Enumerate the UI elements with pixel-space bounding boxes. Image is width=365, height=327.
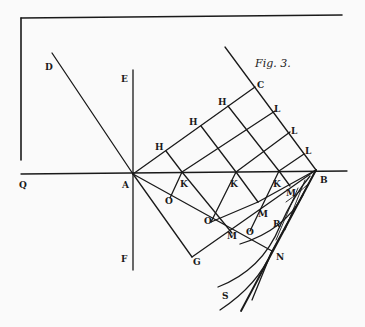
label-R: R (273, 219, 281, 229)
label-A: A (121, 180, 130, 190)
label-L2: L (291, 126, 298, 136)
label-G: G (193, 257, 201, 267)
grid-parallel-AC (182, 111, 304, 172)
label-O3: O (246, 227, 254, 237)
label-M1: M (286, 188, 296, 198)
label-E: E (121, 74, 128, 84)
line-DA (52, 53, 133, 174)
label-D: D (45, 62, 53, 72)
label-C: C (257, 80, 264, 90)
label-O2: O (204, 216, 212, 226)
lower-lattice (133, 170, 316, 257)
label-H3: H (155, 142, 164, 152)
label-S: S (222, 291, 229, 301)
curves (218, 176, 310, 310)
figure-title: Fig. 3. (254, 57, 291, 70)
label-K3: K (273, 179, 282, 189)
label-H1: H (218, 97, 227, 107)
geometric-figure: Fig. 3. D E C H H H L L L Q A K K K B O … (0, 0, 365, 327)
label-O1: O (165, 196, 173, 206)
label-L1: L (274, 104, 281, 114)
label-M3: M (227, 231, 237, 241)
label-L3: L (305, 146, 312, 156)
frame (21, 15, 342, 160)
label-K2: K (230, 179, 239, 189)
label-K1: K (180, 179, 189, 189)
label-N: N (276, 252, 284, 262)
label-M2: M (258, 209, 268, 219)
label-B: B (320, 175, 328, 185)
label-H2: H (189, 117, 198, 127)
line-AC (133, 87, 255, 174)
label-F: F (121, 254, 128, 264)
label-Q: Q (19, 180, 27, 190)
